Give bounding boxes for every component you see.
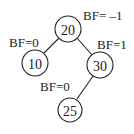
edge-20-10 (44, 38, 59, 53)
balance-factor-label-25: BF=0 (40, 79, 70, 94)
tree-node-20: 20 (55, 16, 81, 42)
node-value: 25 (63, 104, 77, 119)
node-value: 20 (61, 23, 75, 38)
node-value: 10 (28, 57, 42, 72)
avl-tree-diagram: 20 BF= –1 10 BF=0 30 BF=1 25 BF=0 (0, 0, 134, 134)
edge-20-30 (77, 38, 92, 55)
tree-node-30: 30 (87, 52, 113, 78)
node-value: 30 (93, 59, 107, 74)
tree-node-25: 25 (58, 98, 82, 122)
balance-factor-label-20: BF= –1 (83, 8, 122, 23)
balance-factor-label-10: BF=0 (9, 35, 39, 50)
edge-30-25 (77, 76, 93, 99)
balance-factor-label-30: BF=1 (97, 37, 127, 52)
tree-node-10: 10 (22, 50, 48, 76)
